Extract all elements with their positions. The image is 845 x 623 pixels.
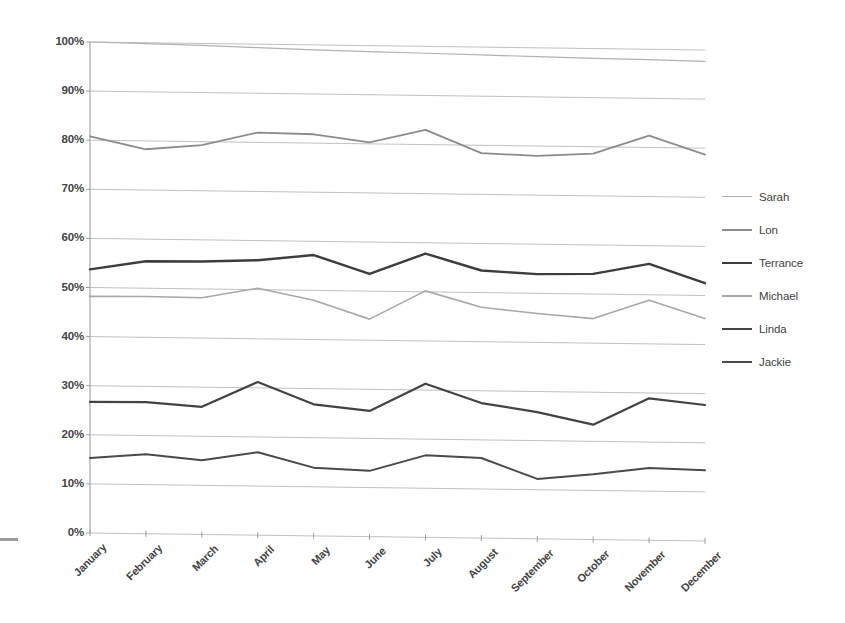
legend-swatch-sarah bbox=[722, 196, 752, 197]
legend-label: Michael bbox=[759, 290, 798, 302]
series-line-linda bbox=[90, 382, 705, 425]
series-line-terrance bbox=[90, 254, 705, 284]
legend-swatch-jackie bbox=[722, 361, 752, 363]
gridlines bbox=[90, 42, 705, 541]
legend-label: Sarah bbox=[759, 191, 789, 203]
legend-swatch-lon bbox=[722, 229, 752, 231]
series-line-lon bbox=[90, 130, 705, 156]
gridline bbox=[90, 238, 705, 246]
line-chart: 0%10%20%30%40%50%60%70%80%90%100% Januar… bbox=[0, 0, 845, 623]
gridline bbox=[90, 91, 705, 99]
legend-swatch-michael bbox=[722, 295, 752, 297]
plot-canvas bbox=[0, 0, 845, 623]
legend-label: Terrance bbox=[759, 257, 803, 269]
axis-lines bbox=[86, 42, 705, 544]
legend-item-lon[interactable]: Lon bbox=[722, 213, 840, 246]
series-line-michael bbox=[90, 288, 705, 319]
series-line-jackie bbox=[90, 452, 705, 479]
data-series bbox=[90, 42, 705, 479]
x-axis-labels: JanuaryFebruaryMarchAprilMayJuneJulyAugu… bbox=[90, 533, 705, 613]
legend-label: Jackie bbox=[759, 356, 791, 368]
legend-item-terrance[interactable]: Terrance bbox=[722, 246, 840, 279]
legend-swatch-terrance bbox=[722, 262, 752, 264]
gridline bbox=[90, 337, 705, 345]
gridline bbox=[90, 288, 705, 296]
chart-legend: SarahLonTerranceMichaelLindaJackie bbox=[722, 180, 840, 378]
gridline bbox=[90, 386, 705, 394]
legend-item-michael[interactable]: Michael bbox=[722, 279, 840, 312]
legend-item-linda[interactable]: Linda bbox=[722, 312, 840, 345]
legend-item-jackie[interactable]: Jackie bbox=[722, 345, 840, 378]
gridline bbox=[90, 484, 705, 492]
legend-label: Lon bbox=[759, 224, 778, 236]
legend-item-sarah[interactable]: Sarah bbox=[722, 180, 840, 213]
gridline bbox=[90, 189, 705, 197]
legend-swatch-linda bbox=[722, 328, 752, 330]
legend-label: Linda bbox=[759, 323, 787, 335]
series-line-sarah bbox=[90, 42, 705, 61]
gridline bbox=[90, 42, 705, 50]
gridline bbox=[90, 435, 705, 443]
